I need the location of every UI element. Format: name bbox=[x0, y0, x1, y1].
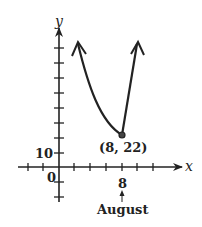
x-tick-label-8: 8 bbox=[118, 176, 127, 191]
august-pointer bbox=[120, 190, 125, 202]
august-label: August bbox=[96, 202, 148, 217]
y-tick-label-10: 10 bbox=[35, 146, 53, 161]
y-axis-label: y bbox=[54, 13, 64, 29]
x-axis-label: x bbox=[185, 158, 193, 174]
arrowhead-right-icon bbox=[131, 42, 144, 55]
origin-label: 0 bbox=[47, 170, 56, 185]
curve-series bbox=[72, 42, 144, 138]
x-axis bbox=[18, 163, 182, 171]
vertex-label: (8, 22) bbox=[99, 140, 148, 155]
vertex-point bbox=[119, 132, 125, 138]
chart: y x 0 10 8 (8, 22) August bbox=[0, 0, 202, 227]
